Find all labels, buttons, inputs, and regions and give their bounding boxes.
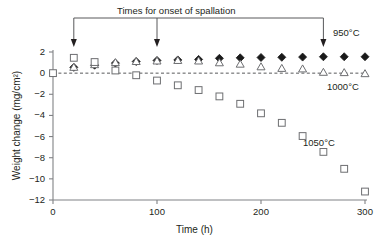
series-label-1050c: 1050°C bbox=[303, 137, 335, 148]
annotation-label: Times for onset of spallation bbox=[117, 5, 235, 16]
y-tick-label: 0 bbox=[19, 67, 45, 78]
chart-figure: Times for onset of spallation Time (h) W… bbox=[0, 0, 382, 242]
x-axis-label: Time (h) bbox=[176, 224, 213, 235]
x-tick-label: 0 bbox=[38, 206, 68, 217]
y-tick-label: −8 bbox=[19, 152, 45, 163]
y-tick-label: −12 bbox=[19, 194, 45, 205]
y-tick-label: −4 bbox=[19, 109, 45, 120]
series-label-1000c: 1000°C bbox=[327, 81, 359, 92]
series-label-950c: 950°C bbox=[333, 27, 360, 38]
x-tick-label: 300 bbox=[350, 206, 380, 217]
x-tick-label: 100 bbox=[142, 206, 172, 217]
data-series-markers bbox=[50, 53, 369, 195]
y-tick-label: −2 bbox=[19, 88, 45, 99]
y-tick-label: −10 bbox=[19, 173, 45, 184]
y-tick-label: 2 bbox=[19, 46, 45, 57]
y-axis-label: Weight change (mg/cm²) bbox=[11, 61, 22, 191]
spallation-onset-annotation bbox=[71, 18, 327, 47]
y-tick-label: −6 bbox=[19, 131, 45, 142]
x-tick-label: 200 bbox=[246, 206, 276, 217]
